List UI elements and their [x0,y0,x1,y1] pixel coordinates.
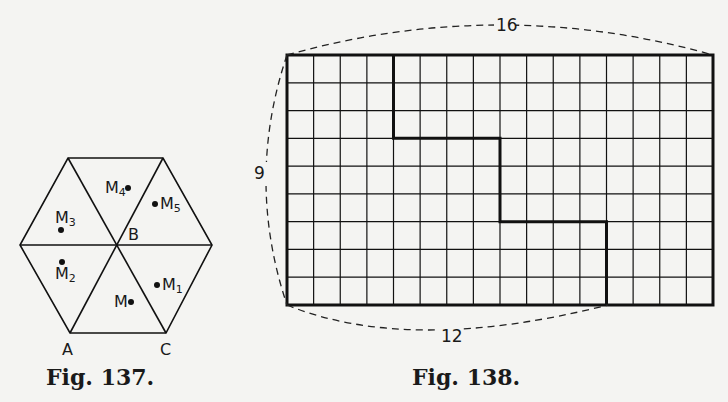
dimension-label-bottom: 12 [441,328,463,345]
dimension-arcs [266,25,713,330]
grid-figure [0,0,728,402]
dimension-label-top: 16 [496,17,518,34]
figure-caption-138: Fig. 138. [412,364,520,390]
dimension-label-left: 9 [254,165,265,182]
textbook-page: A C B M3 M2 M4 M5 M1 M Fig. 137. 16 9 12… [0,0,728,402]
